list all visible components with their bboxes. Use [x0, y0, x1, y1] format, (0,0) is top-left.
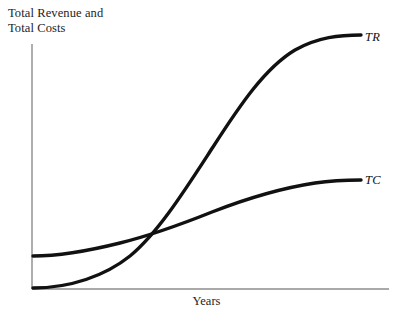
series-label-tr: TR — [365, 30, 380, 45]
x-axis-title: Years — [0, 294, 413, 309]
series-label-tc: TC — [365, 173, 381, 188]
chart-plot-area — [0, 0, 413, 322]
chart-container: Total Revenue and Total Costs TR TC Year… — [0, 0, 413, 322]
total-cost-curve — [33, 180, 361, 256]
